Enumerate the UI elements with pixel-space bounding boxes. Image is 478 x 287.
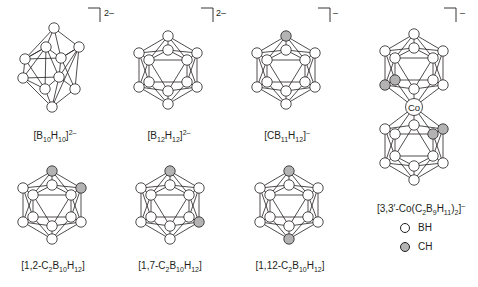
bh-vertex-112c2b10 (303, 190, 313, 200)
bh-vertex-17c2b10 (146, 212, 156, 222)
bh-vertex-cb11 (310, 48, 320, 58)
charge-b10h10: 2– (104, 8, 114, 18)
bh-vertex-12c2b10 (28, 190, 38, 200)
ch-vertex-112c2b10 (284, 234, 294, 244)
bh-vertex-12c2b10 (18, 183, 28, 193)
bh-vertex-b12 (192, 48, 202, 58)
bh-vertex-co-lower (390, 151, 400, 161)
formula-label-co-c2b9h11: [3,3′-Co(C2B9H11)2]– (377, 203, 465, 215)
bh-vertex-b10 (41, 42, 51, 52)
bh-vertex-b12 (163, 31, 173, 41)
formula-label-b12h12: [B12H12]2– (148, 130, 191, 142)
bh-vertex-cb11 (281, 99, 291, 109)
bh-vertex-12c2b10 (76, 217, 86, 227)
ch-vertex-co-upper (380, 80, 390, 90)
bh-vertex-b12 (182, 55, 192, 65)
bh-vertex-co-upper (438, 80, 448, 90)
charge-cb11h12: – (333, 8, 338, 18)
bh-vertex-112c2b10 (284, 221, 294, 231)
bh-vertex-b10 (74, 42, 84, 52)
bh-vertex-17c2b10 (194, 183, 204, 193)
bh-vertex-b10 (40, 84, 50, 94)
ch-vertex-17c2b10 (194, 217, 204, 227)
bh-vertex-b10 (70, 84, 80, 94)
bh-vertex-12c2b10 (18, 217, 28, 227)
ch-vertex-112c2b10 (284, 166, 294, 176)
formula-label-cb11h12: [CB11H12]– (264, 130, 310, 142)
bh-vertex-b10 (18, 73, 28, 83)
bh-vertex-17c2b10 (165, 221, 175, 231)
bh-vertex-co-lower (409, 175, 419, 185)
ch-vertex-co-lower (428, 129, 438, 139)
bh-vertex-cb11 (281, 86, 291, 96)
bh-vertex-17c2b10 (136, 217, 146, 227)
bh-vertex-cb11 (281, 45, 291, 55)
bh-vertex-17c2b10 (136, 183, 146, 193)
formula-label-b10h10: [B10H10]2– (34, 130, 77, 142)
bh-vertex-b10 (54, 72, 64, 82)
bh-vertex-cb11 (300, 77, 310, 87)
ch-vertex-co-lower (438, 124, 448, 134)
bh-vertex-b12 (163, 99, 173, 109)
bh-vertex-112c2b10 (265, 212, 275, 222)
bh-vertex-icon (400, 223, 410, 233)
formula-label-1-12-c2b10h12: [1,12-C2B10H12] (256, 260, 325, 272)
bh-vertex-co-upper (409, 43, 419, 53)
bh-vertex-112c2b10 (255, 183, 265, 193)
bh-vertex-co-upper (390, 53, 400, 63)
bh-vertex-12c2b10 (28, 212, 38, 222)
bh-vertex-112c2b10 (313, 183, 323, 193)
bh-vertex-b12 (144, 55, 154, 65)
bh-vertex-17c2b10 (184, 212, 194, 222)
bh-vertex-b10 (47, 102, 57, 112)
bh-vertex-co-lower (409, 161, 419, 171)
bh-vertex-112c2b10 (284, 180, 294, 190)
bh-vertex-co-upper (428, 53, 438, 63)
bh-vertex-cb11 (262, 55, 272, 65)
bh-vertex-co-lower (380, 124, 390, 134)
bh-vertex-b12 (144, 77, 154, 87)
bh-vertex-b12 (134, 48, 144, 58)
bh-vertex-b10 (49, 23, 59, 33)
ch-vertex-cb11 (281, 31, 291, 41)
bh-vertex-17c2b10 (146, 190, 156, 200)
legend-bh: BH (400, 222, 432, 233)
bh-vertex-cb11 (252, 82, 262, 92)
bh-vertex-112c2b10 (303, 212, 313, 222)
bh-vertex-17c2b10 (165, 234, 175, 244)
bh-vertex-co-upper (428, 75, 438, 85)
bh-vertex-co-lower (409, 120, 419, 130)
legend-ch-label: CH (418, 241, 432, 252)
bh-vertex-cb11 (262, 77, 272, 87)
bh-vertex-cb11 (310, 82, 320, 92)
bh-vertex-co-lower (428, 151, 438, 161)
legend-ch: CH (400, 241, 432, 252)
bh-vertex-112c2b10 (265, 190, 275, 200)
legend-bh-label: BH (418, 222, 432, 233)
bh-vertex-12c2b10 (47, 221, 57, 231)
bh-vertex-co-lower (438, 158, 448, 168)
bh-vertex-b12 (163, 86, 173, 96)
bh-vertex-co-lower (380, 158, 390, 168)
charge-cobaltacarborane: – (460, 8, 465, 18)
bh-vertex-12c2b10 (47, 234, 57, 244)
bh-vertex-b12 (182, 77, 192, 87)
bh-vertex-b10 (20, 54, 30, 64)
bh-vertex-b10 (56, 53, 66, 63)
bh-vertex-b12 (134, 82, 144, 92)
bh-vertex-co-upper (409, 29, 419, 39)
bh-vertex-co-upper (409, 84, 419, 94)
bh-vertex-b12 (163, 45, 173, 55)
cobalt-label: Co (408, 102, 420, 113)
bh-vertex-12c2b10 (66, 212, 76, 222)
ch-vertex-icon (400, 242, 410, 252)
formula-label-1-2-c2b10h12: [1,2-C2B10H12] (21, 260, 84, 272)
bh-vertex-co-lower (390, 129, 400, 139)
bh-vertex-b12 (192, 82, 202, 92)
bh-vertex-co-upper (438, 46, 448, 56)
bh-vertex-cb11 (252, 48, 262, 58)
ch-vertex-17c2b10 (165, 166, 175, 176)
bh-vertex-cb11 (300, 55, 310, 65)
bh-vertex-17c2b10 (165, 180, 175, 190)
formula-label-1-7-c2b10h12: [1,7-C2B10H12] (138, 260, 201, 272)
